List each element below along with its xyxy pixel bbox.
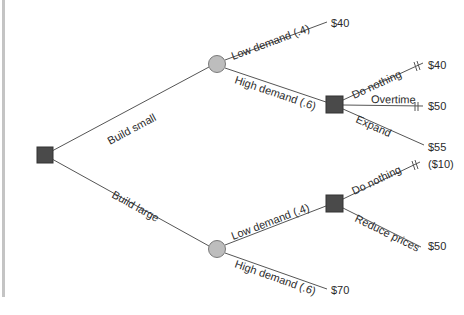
bs-high-demand-decision-node	[326, 96, 343, 113]
payoff-bl-reduce-prices: $50	[428, 240, 446, 252]
label-bs-high-demand: High demand (.6)	[233, 74, 317, 112]
label-bl-reduce-prices: Reduce prices	[353, 212, 422, 254]
prune-mark-bl-do-nothing	[412, 160, 418, 170]
payoff-bs-overtime: $50	[428, 100, 446, 112]
edge-build-small	[52, 67, 209, 151]
bl-low-demand-decision-node	[326, 195, 343, 212]
decision-tree: Build small Build large Low demand (.4) …	[0, 0, 464, 315]
root-decision-node	[37, 147, 53, 163]
payoff-bs-low-demand: $40	[331, 17, 349, 29]
label-build-large: Build large	[110, 188, 161, 224]
label-build-small: Build small	[105, 111, 158, 147]
payoff-bs-do-nothing: $40	[428, 59, 446, 71]
build-small-chance-node	[209, 56, 226, 73]
label-bl-low-demand: Low demand (.4)	[229, 201, 310, 242]
label-bs-overtime: Overtime	[371, 93, 416, 106]
payoff-bl-high-demand: $70	[331, 284, 349, 296]
label-bs-expand: Expand	[354, 113, 393, 139]
build-large-chance-node	[209, 241, 226, 258]
payoff-bs-expand: $55	[428, 141, 446, 153]
label-bl-do-nothing: Do nothing	[350, 163, 403, 197]
label-bl-high-demand: High demand (.6)	[233, 258, 317, 298]
label-bs-low-demand: Low demand (.4)	[230, 22, 312, 62]
payoff-bl-do-nothing: ($10)	[428, 158, 454, 170]
